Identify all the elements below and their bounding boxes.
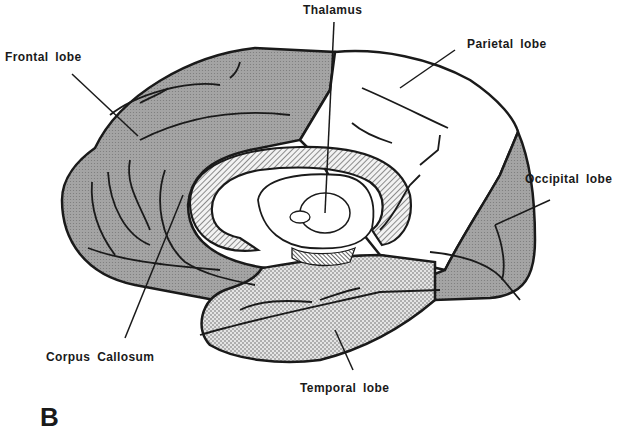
- brain-illustration: [0, 0, 639, 433]
- label-frontal-lobe: Frontal lobe: [5, 50, 81, 64]
- label-corpus-callosum: Corpus Callosum: [46, 350, 154, 364]
- label-thalamus: Thalamus: [303, 3, 362, 17]
- panel-letter: B: [40, 402, 59, 433]
- label-parietal-lobe: Parietal lobe: [467, 37, 547, 51]
- thalamus-region: [258, 174, 373, 248]
- label-temporal-lobe: Temporal lobe: [300, 381, 389, 395]
- label-occipital-lobe: Occipital lobe: [525, 172, 612, 186]
- brain-diagram: Frontal lobe Thalamus Parietal lobe Occi…: [0, 0, 639, 433]
